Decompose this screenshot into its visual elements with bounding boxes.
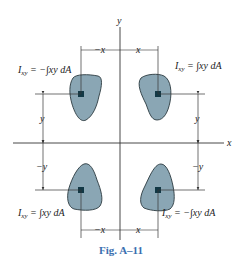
x-dimension-label: x <box>135 44 141 55</box>
area-shape <box>68 164 102 211</box>
x-axis-label: x <box>226 137 232 148</box>
area-quadrant-top-left: y −x Ixy = −∫xy dA <box>17 44 120 143</box>
product-of-inertia-diagram: x y y −x Ixy = −∫xy dA y x Ixy = ∫xy dA <box>0 0 242 266</box>
area-quadrant-top-right: y x Ixy = ∫xy dA <box>120 44 222 143</box>
x-dimension-label: −x <box>94 44 106 55</box>
figure-caption: Fig. A–11 <box>0 244 242 256</box>
equation-label: Ixy = ∫xy dA <box>174 60 222 73</box>
x-dimension-label: x <box>135 224 141 235</box>
y-dimension-label: y <box>39 113 45 124</box>
y-dimension-label: −y <box>192 161 204 172</box>
equation-label: Ixy = −∫xy dA <box>17 64 72 77</box>
equation-label: Ixy = ∫xy dA <box>17 207 65 220</box>
y-dimension-label: −y <box>36 161 48 172</box>
x-dimension-label: −x <box>94 224 106 235</box>
area-shape <box>139 74 171 120</box>
area-quadrant-bottom-right: −y x Ixy = −∫xy dA <box>120 143 216 238</box>
area-shape <box>70 75 102 121</box>
y-axis-label: y <box>116 15 122 26</box>
area-quadrant-bottom-left: −y −x Ixy = ∫xy dA <box>17 143 120 238</box>
y-dimension-label: y <box>194 113 200 124</box>
